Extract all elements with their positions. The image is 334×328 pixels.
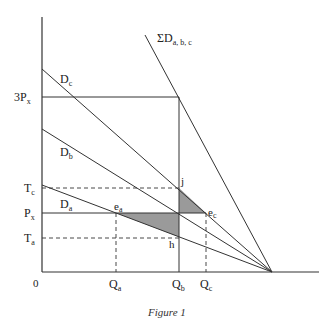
label-ec: ec [208,206,217,220]
label-dc: Dc [60,72,73,88]
label-px: Px [24,206,35,222]
demand-curve-db [42,129,272,272]
label-qc: Qc [200,277,213,293]
demand-curve-da [42,185,272,272]
label-sum-demand: ΣDa, b, c [157,31,192,47]
label-j: j [180,175,184,187]
label-qa: Qa [109,277,122,293]
label-qb: Qb [172,277,185,293]
label-3px: 3Px [14,90,31,106]
figure-caption: Figure 1 [147,306,186,318]
demand-diagram: 3Px Tc Px Ta 0 Qa Qb Qc Dc Db Da ΣDa, b,… [0,0,334,328]
label-ta: Ta [24,231,35,247]
aggregate-demand-curve [145,35,272,272]
label-ea: ea [114,200,123,214]
label-origin: 0 [33,277,39,289]
shaded-triangle-right [179,188,206,213]
label-h: h [169,238,175,250]
label-tc: Tc [24,181,35,197]
label-da: Da [60,197,73,213]
demand-curve-dc [42,69,272,272]
